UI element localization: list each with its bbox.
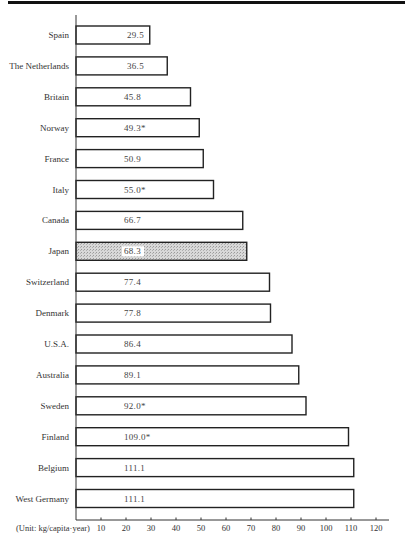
data-label: 55.0* xyxy=(124,185,146,195)
data-label: 89.1 xyxy=(124,370,141,380)
data-label: 36.5 xyxy=(127,61,144,71)
x-tick-label: 60 xyxy=(222,523,231,533)
data-label: 68.3 xyxy=(124,246,141,256)
category-label: U.S.A. xyxy=(44,339,69,349)
data-label: 29.5 xyxy=(127,30,144,40)
bar-u-s-a xyxy=(76,335,292,353)
data-label: 111.1 xyxy=(124,494,145,504)
bar-japan xyxy=(76,242,247,260)
category-label: Japan xyxy=(49,246,70,256)
data-label: 45.8 xyxy=(124,92,141,102)
x-tick-label: 100 xyxy=(320,523,333,533)
category-label: Australia xyxy=(36,370,69,380)
category-label: Denmark xyxy=(36,308,70,318)
x-tick-label: 50 xyxy=(197,523,206,533)
x-tick-label: 70 xyxy=(247,523,256,533)
data-label: 66.7 xyxy=(124,215,141,225)
bar-west-germany xyxy=(76,490,354,508)
category-label: Belgium xyxy=(38,463,69,473)
category-label: West Germany xyxy=(15,494,69,504)
data-label: 50.9 xyxy=(124,154,141,164)
category-label: Spain xyxy=(48,30,69,40)
data-label: 109.0* xyxy=(124,432,151,442)
category-label: Canada xyxy=(42,215,69,225)
category-label: Norway xyxy=(40,123,69,133)
category-label: Finland xyxy=(41,432,69,442)
data-label: 77.8 xyxy=(124,308,141,318)
x-tick-label: 120 xyxy=(370,523,383,533)
bar-the-netherlands xyxy=(76,57,167,75)
category-label: The Netherlands xyxy=(9,61,69,71)
category-label: Italy xyxy=(53,185,70,195)
data-label: 92.0* xyxy=(124,401,146,411)
x-tick-label: 80 xyxy=(272,523,281,533)
category-label: France xyxy=(45,154,70,164)
data-label: 77.4 xyxy=(124,277,141,287)
bar-belgium xyxy=(76,459,354,477)
x-tick-label: 110 xyxy=(345,523,357,533)
bar-sweden xyxy=(76,397,306,415)
x-tick-label: 10 xyxy=(97,523,106,533)
x-tick-label: 30 xyxy=(147,523,156,533)
bar-switzerland xyxy=(76,273,270,291)
x-tick-label: 20 xyxy=(122,523,131,533)
data-label: 49.3* xyxy=(124,123,146,133)
x-tick-label: 40 xyxy=(172,523,181,533)
bar-finland xyxy=(76,428,349,446)
data-label: 86.4 xyxy=(124,339,141,349)
bar-australia xyxy=(76,366,299,384)
data-label: 111.1 xyxy=(124,463,145,473)
bar-chart: Spain29.5The Netherlands36.5Britain45.8N… xyxy=(0,0,405,544)
x-tick-label: 90 xyxy=(297,523,306,533)
category-label: Britain xyxy=(44,92,69,102)
category-label: Sweden xyxy=(41,401,70,411)
x-axis-label: (Unit: kg/capita·year) xyxy=(16,523,90,533)
bar-canada xyxy=(76,211,243,229)
category-label: Switzerland xyxy=(26,277,69,287)
bar-denmark xyxy=(76,304,271,322)
